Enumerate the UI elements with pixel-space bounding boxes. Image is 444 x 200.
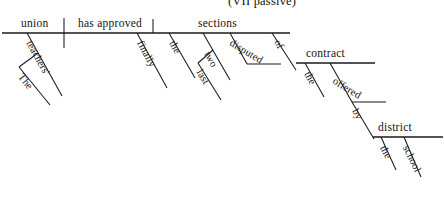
word-verb: has approved: [78, 18, 142, 30]
figure-title-label: (VII passive): [228, 0, 296, 8]
word-contract: contract: [306, 48, 345, 60]
word-direct-object: sections: [198, 18, 237, 30]
word-subject-possessive: teachers': [24, 39, 51, 77]
word-object-last: last: [194, 68, 211, 86]
word-district-article: the: [378, 144, 393, 161]
word-object-article: the: [167, 39, 183, 56]
sentence-diagram: (VII passive) union has approved section…: [0, 0, 444, 200]
word-subject: union: [21, 18, 48, 30]
word-preposition-by: by: [350, 107, 364, 122]
word-participle-disputed: disputed: [228, 38, 265, 66]
word-contract-article: the: [302, 70, 318, 87]
word-adverb-finally: finally: [135, 39, 158, 69]
word-district: district: [378, 122, 412, 134]
word-subject-article: The: [16, 72, 35, 92]
diagram-labels: (VII passive) union has approved section…: [0, 0, 444, 200]
word-school: school: [401, 144, 423, 174]
word-preposition-of: of: [272, 38, 286, 51]
word-participle-offered: offered: [331, 76, 363, 101]
word-object-number-two: two: [202, 50, 219, 69]
